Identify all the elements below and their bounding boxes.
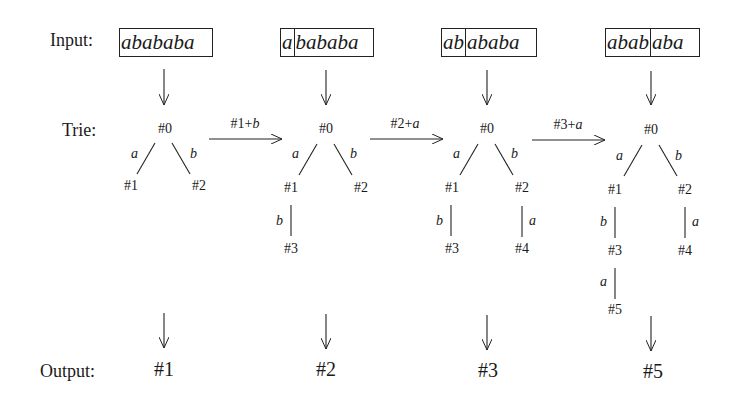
trie3-edge-label: a — [453, 146, 460, 162]
trie4-node-0: #0 — [644, 122, 658, 138]
trie4-node-5: #5 — [608, 302, 622, 318]
output-step-1: #1 — [154, 358, 174, 381]
output-step-3: #3 — [478, 359, 498, 382]
trie3-edge-label: b — [511, 146, 518, 162]
trie2-edge-label: b — [276, 213, 283, 229]
trie3-node-1: #1 — [445, 180, 459, 196]
trie2-edge-label: a — [292, 146, 299, 162]
transition-label-1: #1+b — [231, 116, 260, 132]
diagram-lines — [0, 0, 731, 403]
trie1-node-2: #2 — [192, 178, 206, 194]
trie4-edge-label: b — [600, 214, 607, 230]
trie2-edge-label: b — [350, 146, 357, 162]
output-step-2: #2 — [316, 358, 336, 381]
trie3-edge-label: a — [529, 213, 536, 229]
trie1-node-1: #1 — [124, 178, 138, 194]
trie2-node-3: #3 — [284, 241, 298, 257]
trie4-edge-label: a — [692, 214, 699, 230]
trie3-node-3: #3 — [445, 241, 459, 257]
trie2-node-0: #0 — [319, 121, 333, 137]
trie2-node-2: #2 — [354, 180, 368, 196]
trie4-edge-label: a — [616, 148, 623, 164]
trie4-node-2: #2 — [678, 182, 692, 198]
trie3-node-4: #4 — [515, 241, 529, 257]
trie3-edge-label: b — [436, 213, 443, 229]
transition-label-2: #2+a — [391, 116, 420, 132]
trie4-edge-label: b — [675, 148, 682, 164]
trie4-node-4: #4 — [678, 243, 692, 259]
trie1-edge-label: a — [131, 146, 138, 162]
trie3-node-0: #0 — [480, 121, 494, 137]
trie4-node-3: #3 — [608, 243, 622, 259]
output-step-4: #5 — [643, 360, 663, 383]
trie2-node-1: #1 — [284, 180, 298, 196]
transition-label-3: #3+a — [554, 117, 583, 133]
trie1-node-0: #0 — [158, 121, 172, 137]
trie4-edge-label: a — [600, 274, 607, 290]
trie3-node-2: #2 — [515, 180, 529, 196]
trie4-node-1: #1 — [608, 182, 622, 198]
trie1-edge-label: b — [190, 146, 197, 162]
